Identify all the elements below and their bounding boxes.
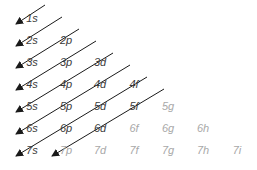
orbital-3p: 3p xyxy=(60,56,72,68)
orbital-7g: 7g xyxy=(162,144,174,156)
orbital-5d: 5d xyxy=(94,100,106,112)
orbital-2p: 2p xyxy=(60,34,72,46)
orbital-6s: 6s xyxy=(26,122,38,134)
orbital-7s: 7s xyxy=(26,144,38,156)
orbital-6p: 6p xyxy=(60,122,72,134)
orbital-7i: 7i xyxy=(233,144,242,156)
orbital-5s: 5s xyxy=(26,100,38,112)
orbital-5f: 5f xyxy=(129,100,138,112)
orbital-5g: 5g xyxy=(162,100,174,112)
orbital-6f: 6f xyxy=(129,122,138,134)
orbital-1s: 1s xyxy=(26,12,38,24)
orbital-3s: 3s xyxy=(26,56,38,68)
orbital-2s: 2s xyxy=(26,34,38,46)
orbital-4f: 4f xyxy=(129,78,138,90)
orbital-3d: 3d xyxy=(94,56,106,68)
orbital-7d: 7d xyxy=(94,144,106,156)
orbital-7p: 7p xyxy=(60,144,72,156)
orbital-7h: 7h xyxy=(197,144,209,156)
orbital-4p: 4p xyxy=(60,78,72,90)
orbital-6d: 6d xyxy=(94,122,106,134)
orbital-6g: 6g xyxy=(162,122,174,134)
orbital-4s: 4s xyxy=(26,78,38,90)
orbital-7f: 7f xyxy=(129,144,138,156)
filling-arrow-2 xyxy=(16,17,62,46)
orbital-4d: 4d xyxy=(94,78,106,90)
orbital-6h: 6h xyxy=(197,122,209,134)
orbital-5p: 5p xyxy=(60,100,72,112)
